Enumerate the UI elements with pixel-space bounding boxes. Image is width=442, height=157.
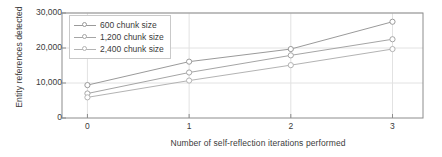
chart-legend: 600 chunk size1,200 chunk size2,400 chun… [69,15,171,59]
legend-marker-icon [74,20,96,30]
y-tick-label: 0 [22,112,62,122]
y-tick-label: 30,000 [22,7,62,17]
data-point-marker [85,83,90,88]
legend-item: 600 chunk size [74,19,164,31]
data-point-marker [187,70,192,75]
legend-marker-icon [74,44,96,54]
plot-canvas [0,0,442,157]
data-point-marker [288,46,293,51]
x-tick-label: 1 [174,121,204,131]
data-point-marker [288,63,293,68]
legend-circle-icon [82,22,87,27]
legend-label: 1,200 chunk size [100,31,164,43]
legend-label: 2,400 chunk size [100,43,164,55]
legend-circle-icon [82,34,87,39]
y-tick-label: 20,000 [22,42,62,52]
data-point-marker [390,19,395,24]
legend-marker-icon [74,32,96,42]
x-axis-title: Number of self-reflection iterations per… [88,138,428,148]
data-point-marker [288,53,293,58]
data-point-marker [390,46,395,51]
x-tick-label: 0 [72,121,102,131]
data-point-marker [85,95,90,100]
data-point-marker [187,59,192,64]
legend-circle-icon [82,46,87,51]
legend-label: 600 chunk size [100,19,157,31]
data-point-marker [187,78,192,83]
y-axis-title: Entity references detected [12,0,26,122]
y-axis-tick-labels: 010,00020,00030,000 [20,0,62,157]
x-tick-label: 2 [276,121,306,131]
legend-item: 2,400 chunk size [74,43,164,55]
legend-item: 1,200 chunk size [74,31,164,43]
x-tick-label: 3 [377,121,407,131]
chart-figure: 010,00020,00030,000 0123 Entity referenc… [0,0,442,157]
y-tick-label: 10,000 [22,77,62,87]
data-point-marker [390,37,395,42]
